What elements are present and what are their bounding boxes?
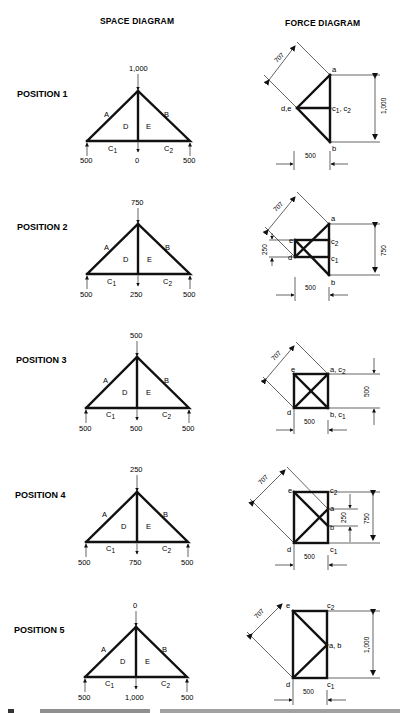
force-diagram-header: FORCE DIAGRAM (285, 18, 360, 28)
point-label-c2: c2 (327, 601, 335, 611)
point-label-c2: c2 (331, 237, 339, 247)
height-dimension-value: 750 (380, 245, 387, 256)
point-label-a-b: a, b (329, 641, 342, 650)
dimension-extension-line (263, 377, 294, 408)
width-dimension-value: 500 (305, 152, 316, 159)
point-label-a: a (330, 504, 335, 513)
height-dimension-value: 1,000 (380, 97, 387, 114)
region-label-c1: C1 (106, 544, 115, 554)
region-label-a: A (101, 645, 106, 654)
left-reaction-value: 500 (80, 156, 93, 165)
region-label-c1: C1 (107, 277, 116, 287)
point-label-c2: c2 (330, 486, 338, 496)
height-dimension-value: 500 (363, 386, 370, 397)
region-label-a: A (104, 243, 109, 252)
position-4: POSITION 4 250 A B D E C1 C2 500 750 500… (15, 465, 380, 570)
point-label-d: d (288, 253, 292, 262)
region-label-c1: C1 (108, 144, 117, 154)
force-diagram: 707 500 e d a, c2 b, c1 500 (263, 342, 380, 434)
region-label-b: B (164, 376, 169, 385)
space-diagram: 250 A B D E C1 C2 500 750 500 (78, 465, 194, 567)
mid-load-value: 750 (129, 558, 142, 567)
space-diagram: 0 A B D E C1 C2 500 1,000 500 (78, 601, 194, 702)
mid-load-value: 250 (130, 290, 143, 299)
point-label-e: e (291, 365, 295, 374)
top-load-value: 750 (131, 198, 144, 207)
point-label-d: d (286, 680, 290, 689)
space-diagram: 1,000 A B D E C1 C2 500 0 500 (80, 64, 196, 165)
diag-dimension-arrow (268, 197, 295, 230)
inner-dimension-value: 250 (340, 512, 347, 523)
point-label-de: d,e (281, 104, 291, 113)
region-label-b: B (164, 110, 169, 119)
point-label-a-c2: a, c2 (330, 365, 346, 375)
top-load-value: 0 (133, 601, 137, 610)
right-reaction-value: 500 (181, 558, 194, 567)
width-dimension-value: 500 (305, 284, 316, 291)
dimension-extension-line (297, 42, 330, 75)
point-label-a: a (331, 214, 336, 223)
width-dimension-value: 500 (304, 553, 315, 560)
diag-dimension-arrow (254, 470, 285, 501)
width-dimension-value: 500 (303, 688, 314, 695)
diag-dimension-value: 707 (257, 473, 270, 486)
region-label-d: D (120, 657, 126, 666)
point-label-d: d (287, 408, 291, 417)
position-label: POSITION 4 (15, 490, 66, 500)
left-reaction-value: 500 (79, 424, 92, 433)
diag-dimension-arrow (266, 346, 294, 379)
mid-load-value: 1,000 (125, 693, 144, 702)
diag-dimension-value: 707 (273, 51, 286, 64)
point-label-c1: c1 (327, 680, 335, 690)
region-label-e: E (145, 657, 150, 666)
region-label-e: E (146, 522, 151, 531)
force-rectangle (294, 492, 328, 543)
point-label-d: d (287, 545, 291, 554)
right-reaction-value: 500 (181, 693, 194, 702)
point-label-e: e (289, 236, 293, 245)
region-label-a: A (103, 376, 108, 385)
region-label-c1: C1 (106, 410, 115, 420)
point-label-c1: c1 (330, 545, 338, 555)
space-diagram: 750 A B D E C1 C2 500 250 500 (80, 198, 196, 299)
region-label-d: D (122, 388, 128, 397)
diag-dimension-arrow (269, 46, 295, 80)
position-3: POSITION 3 500 A B D E C1 C2 500 500 500… (16, 331, 380, 434)
region-label-c1: C1 (105, 679, 114, 689)
region-label-c2: C2 (164, 144, 173, 154)
region-label-c2: C2 (163, 277, 172, 287)
region-label-e: E (146, 388, 151, 397)
right-reaction-value: 500 (183, 156, 196, 165)
height-dimension-value: 1,000 (363, 636, 370, 653)
dimension-extension-line (297, 192, 329, 224)
region-label-a: A (104, 110, 109, 119)
space-diagram: 500 A B D E C1 C2 500 500 500 (79, 331, 195, 433)
region-label-d: D (123, 122, 129, 131)
left-reaction-value: 500 (78, 558, 91, 567)
dimension-extension-line (250, 499, 294, 543)
dimension-extension-line (296, 342, 328, 374)
height-dimension-value: 750 (363, 513, 370, 524)
force-diagram: 707 1,000 a b d,e c1, c2 500 (264, 42, 387, 170)
region-label-c2: C2 (162, 544, 171, 554)
truss-diagram-figure: SPACE DIAGRAM FORCE DIAGRAM POSITION 1 1… (0, 0, 418, 713)
top-load-value: 500 (130, 331, 143, 340)
force-member (294, 509, 328, 543)
region-label-b: B (165, 243, 170, 252)
dimension-extension-line (247, 632, 293, 678)
right-reaction-value: 500 (182, 424, 195, 433)
top-load-value: 250 (130, 465, 143, 474)
position-1: POSITION 1 1,000 A B D E C1 C2 500 0 500… (17, 42, 387, 170)
top-load-value: 1,000 (129, 64, 148, 73)
region-label-d: D (121, 522, 127, 531)
truncated-caption (8, 709, 400, 713)
position-label: POSITION 2 (17, 222, 68, 232)
point-label-a: a (332, 65, 337, 74)
space-diagram-header: SPACE DIAGRAM (100, 16, 174, 26)
width-dimension-value: 500 (304, 418, 315, 425)
region-label-d: D (123, 255, 129, 264)
position-label: POSITION 1 (17, 89, 68, 99)
point-label-b-c1: b, c1 (330, 410, 346, 420)
region-label-a: A (102, 510, 107, 519)
mid-load-value: 500 (130, 424, 143, 433)
